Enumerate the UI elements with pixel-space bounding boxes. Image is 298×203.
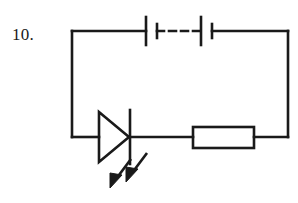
- led-triangle: [99, 112, 129, 162]
- emission-arrow-2-head: [126, 167, 138, 182]
- battery-symbol: [146, 17, 212, 45]
- led-emission-arrows: [110, 153, 147, 188]
- emission-arrow-1-head: [110, 173, 122, 188]
- circuit-diagram-canvas: [0, 0, 298, 203]
- circuit-figure: 10.: [0, 0, 298, 203]
- led-symbol: [99, 110, 130, 164]
- resistor-box: [193, 127, 254, 148]
